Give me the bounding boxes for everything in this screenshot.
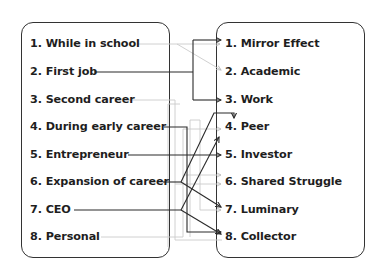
right-item-investor: 5. Investor (225, 148, 292, 162)
left-item-personal: 8. Personal (30, 230, 100, 244)
left-item-ceo: 7. CEO (30, 203, 71, 217)
left-item-second-career: 3. Second career (30, 93, 135, 107)
right-item-luminary: 7. Luminary (225, 203, 299, 217)
left-item-entrepreneur: 5. Entrepreneur (30, 148, 129, 162)
right-item-peer: 4. Peer (225, 120, 269, 134)
right-item-shared-struggle: 6. Shared Struggle (225, 175, 342, 189)
left-item-expansion-of-career: 6. Expansion of career (30, 175, 169, 189)
right-item-collector: 8. Collector (225, 230, 296, 244)
right-item-mirror-effect: 1. Mirror Effect (225, 37, 319, 51)
right-item-work: 3. Work (225, 93, 273, 107)
left-item-while-in-school: 1. While in school (30, 37, 140, 51)
left-item-first-job: 2. First job (30, 65, 97, 79)
left-item-during-early-career: 4. During early career (30, 120, 166, 134)
right-item-academic: 2. Academic (225, 65, 300, 79)
